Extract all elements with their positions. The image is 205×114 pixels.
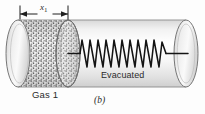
evacuated-label: Evacuated	[101, 70, 144, 80]
panel-caption: (b)	[94, 95, 105, 105]
dimension-label-x1: x1	[40, 2, 48, 14]
gas-cylinder-figure: x1 Gas 1 Evacuated (b)	[0, 0, 205, 114]
gas-label: Gas 1	[32, 89, 58, 100]
left-end-cap	[6, 20, 30, 87]
